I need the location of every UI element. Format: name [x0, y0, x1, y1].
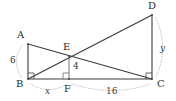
- vertex-label-B: B: [16, 79, 23, 89]
- dimension-arcs-group: [17, 18, 163, 91]
- measure-label-AB: 6: [10, 56, 16, 65]
- dimension-arc-AB: [17, 45, 23, 78]
- vertex-label-A: A: [17, 30, 24, 40]
- measure-label-BF: x: [45, 87, 50, 96]
- vertex-dot-A: [27, 43, 29, 45]
- segments-group: [28, 15, 152, 79]
- vertex-dot-E: [68, 55, 70, 57]
- right-angle-F: [63, 73, 69, 79]
- geometry-figure: A B C D E F 6 4 x 16 y: [0, 0, 176, 101]
- vertex-dot-B: [27, 78, 29, 80]
- geometry-canvas: [0, 0, 176, 101]
- measure-label-FC: 16: [106, 87, 117, 96]
- vertex-dot-C: [151, 78, 153, 80]
- vertex-label-C: C: [157, 79, 165, 89]
- segment-BD: [28, 15, 152, 79]
- vertex-label-D: D: [148, 1, 156, 11]
- measure-label-DC: y: [160, 44, 165, 53]
- segment-AC: [28, 44, 152, 79]
- vertex-label-E: E: [63, 42, 70, 52]
- vertex-dot-F: [68, 78, 70, 80]
- vertex-dot-D: [151, 14, 153, 16]
- vertex-label-F: F: [64, 84, 71, 94]
- measure-label-EF: 4: [73, 62, 79, 71]
